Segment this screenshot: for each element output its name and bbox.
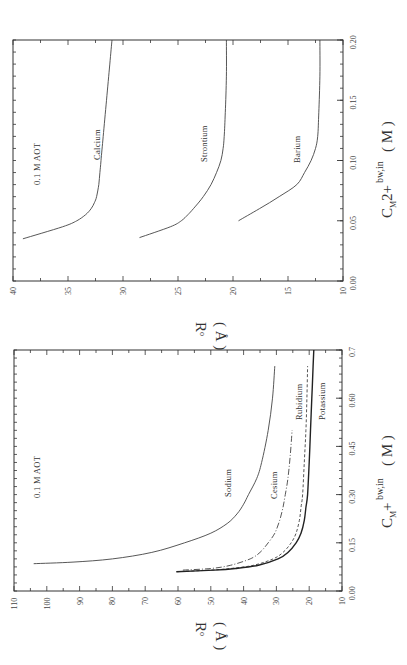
x-tick-label: 0.15 — [348, 538, 357, 552]
x-tick-label: 0.45 — [348, 442, 357, 456]
y-tick-label: 15 — [284, 287, 293, 295]
y-tick-label: 80 — [108, 597, 117, 605]
x-tick-label: 0.15 — [349, 95, 358, 109]
axis-ticks: 101520253035400.000.050.100.150.20 — [9, 35, 358, 295]
label-strontium: Strontium — [199, 125, 209, 162]
series-lines — [23, 40, 320, 239]
x-axis-title-sup: bw,in — [374, 161, 385, 183]
y-axis-title-unit: ( Å ) — [212, 322, 229, 350]
chart-alkali: 1020304050607080901001100.000.150.300.45… — [10, 347, 398, 610]
y-tick-label: 20 — [229, 287, 238, 295]
series-strontium — [140, 40, 227, 238]
y-axis-title-bottom-main: R o — [193, 622, 209, 636]
y-axis-title-top: ( Å ) — [212, 322, 229, 350]
x-tick-label: 0.7 — [348, 347, 357, 357]
y-tick-label: 20 — [305, 597, 314, 605]
x-axis-title-unit: ( M ) — [379, 435, 396, 466]
y-tick-label: 30 — [272, 597, 281, 605]
series-lines — [34, 350, 314, 572]
y-tick-label: 40 — [9, 287, 18, 295]
label-rubidium: Rubidium — [294, 384, 304, 420]
x-tick-label: 0.20 — [349, 35, 358, 49]
y-tick-label: 25 — [174, 287, 183, 295]
x-tick-label: 0.00 — [348, 586, 357, 600]
series-barium — [239, 40, 320, 221]
y-tick-label: 10 — [338, 597, 347, 605]
series-sodium — [34, 366, 275, 564]
x-axis-title-main: C — [379, 518, 395, 528]
annotation-aot: 0.1 M AOT — [32, 455, 42, 498]
x-axis-title-charge: 2+ — [379, 185, 395, 201]
x-axis-title-charge: + — [379, 503, 395, 511]
figure: 101520253035400.000.050.100.150.20 0.1 M… — [0, 0, 407, 665]
label-barium: Barium — [292, 136, 302, 163]
x-tick-label: 0.60 — [348, 393, 357, 407]
y-tick-label: 70 — [141, 597, 150, 605]
y-axis-title-bottom: ( Å ) — [212, 622, 229, 650]
x-tick-label: 0.30 — [348, 490, 357, 504]
x-tick-label: 0.05 — [349, 216, 358, 230]
y-tick-label: 50 — [207, 597, 216, 605]
y-tick-label: 30 — [119, 287, 128, 295]
y-tick-label: 35 — [64, 287, 73, 295]
x-axis-title: C M + bw,in ( M ) — [374, 435, 398, 528]
series-rubidium — [176, 366, 307, 572]
x-tick-label: 0.00 — [349, 276, 358, 290]
y-tick-label: 100 — [43, 598, 52, 610]
y-axis-title-main: R — [193, 322, 209, 332]
x-axis-title-unit: ( M ) — [379, 121, 396, 152]
label-sodium: Sodium — [223, 469, 233, 497]
y-axis-title-sub: o — [198, 332, 207, 336]
y-tick-label: 90 — [76, 597, 85, 605]
label-calcium: Calcium — [92, 129, 102, 160]
x-tick-label: 0.10 — [349, 156, 358, 170]
y-axis-title-sub: o — [198, 632, 207, 636]
y-axis-title-unit: ( Å ) — [212, 622, 229, 650]
label-potassium: Potassium — [317, 382, 327, 420]
y-tick-label: 40 — [240, 597, 249, 605]
series-cesium — [183, 430, 292, 570]
x-axis-title-main: C — [379, 208, 395, 218]
x-axis-title-sup: bw,in — [374, 478, 385, 500]
annotation-aot: 0.1 M AOT — [32, 142, 42, 185]
y-tick-label: 60 — [174, 597, 183, 605]
label-cesium: Cesium — [269, 471, 279, 499]
plot-frame — [14, 350, 342, 591]
y-tick-label: 110 — [10, 598, 19, 610]
x-axis-title: C M 2+ bw,in ( M ) — [374, 121, 398, 218]
y-tick-label: 10 — [339, 287, 348, 295]
y-axis-title-main: R — [193, 622, 209, 632]
chart-alkaline-earth: 101520253035400.000.050.100.150.20 0.1 M… — [9, 35, 398, 295]
y-axis-title-top-main: R o — [193, 322, 209, 336]
